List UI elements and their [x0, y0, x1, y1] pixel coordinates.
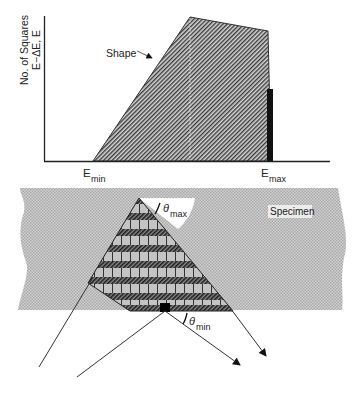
theta-max-symbol: θ: [163, 202, 169, 214]
incident-ray-center: [77, 311, 165, 377]
theta-min-label: θ min: [189, 315, 211, 332]
emax-black-bar: [267, 89, 273, 161]
theta-max-subscript: max: [170, 209, 188, 219]
emax-subscript: max: [269, 174, 287, 184]
emin-label: E: [83, 167, 91, 179]
exit-ray-theta-min: [165, 311, 240, 365]
shape-label: Shape: [106, 47, 137, 59]
specimen-label: Specimen: [270, 206, 314, 217]
diagram-canvas: No. of Squares E−ΔE, E Shape E min E max: [0, 0, 354, 395]
x-tick-emin: E min: [83, 167, 106, 184]
emax-label: E: [261, 167, 269, 179]
energy-histogram-chart: [44, 16, 330, 162]
theta-min-arc-icon: [183, 313, 187, 324]
theta-min-symbol: θ: [189, 315, 195, 327]
y-axis-label: No. of Squares E−ΔE, E: [18, 15, 42, 85]
theta-min-subscript: min: [196, 322, 211, 332]
emin-subscript: min: [91, 174, 106, 184]
y-axis-label-line2: E−ΔE, E: [30, 30, 42, 70]
shape-pointer-arrow: [137, 51, 152, 58]
shape-area: [93, 17, 271, 161]
x-tick-emax: E max: [261, 167, 287, 184]
y-axis-label-line1: No. of Squares: [18, 15, 30, 85]
source-pixel-black-square: [160, 303, 170, 312]
exit-ray-edge: [228, 305, 266, 356]
